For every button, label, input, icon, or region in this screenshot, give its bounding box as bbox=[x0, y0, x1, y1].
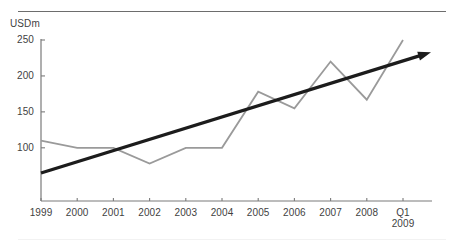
data-series-line bbox=[41, 40, 403, 164]
y-axis-tick-label: 200 bbox=[6, 70, 34, 81]
x-axis-tick-label: Q12009 bbox=[381, 207, 425, 229]
trend-arrow bbox=[41, 52, 431, 173]
y-axis-tick-label: 250 bbox=[6, 34, 34, 45]
trend-arrow-shaft bbox=[41, 55, 423, 173]
y-axis-tick-label: 150 bbox=[6, 106, 34, 117]
chart-figure: USDm 250200150100 1999200020012002200320… bbox=[0, 0, 455, 244]
y-axis-tick-label: 100 bbox=[6, 142, 34, 153]
trend-arrow-head bbox=[417, 52, 431, 61]
